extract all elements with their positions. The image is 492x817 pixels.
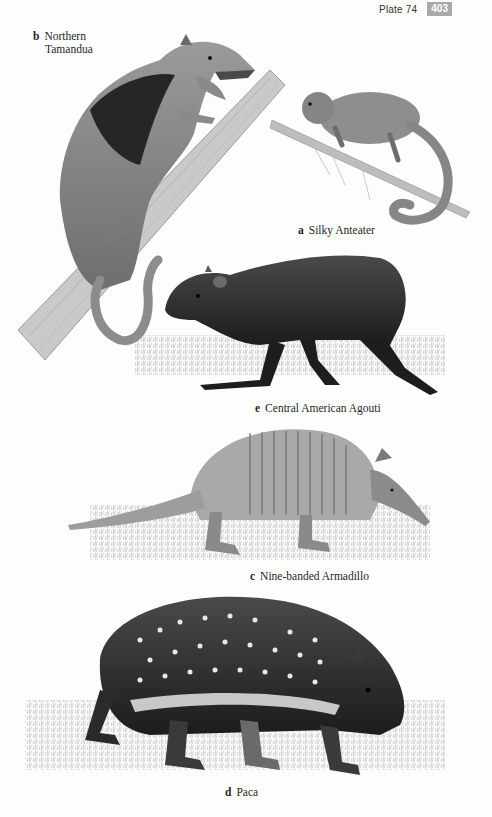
plate-header: Plate 74 403 xyxy=(379,2,452,16)
caption-name: Nine-banded Armadillo xyxy=(260,570,369,582)
illustrations xyxy=(0,0,492,817)
caption-paca: dPaca xyxy=(225,786,258,799)
caption-name: Silky Anteater xyxy=(309,224,375,236)
silky-anteater-illustration xyxy=(270,92,470,220)
caption-letter: a xyxy=(298,224,304,236)
caption-letter: b xyxy=(33,30,39,42)
caption-name-line1: Northern xyxy=(44,30,86,42)
caption-letter: e xyxy=(255,402,260,414)
plate-label: Plate 74 xyxy=(379,4,417,15)
caption-northern-tamandua: bNorthern Tamandua xyxy=(33,30,93,56)
central-american-agouti-illustration xyxy=(135,255,445,395)
nine-banded-armadillo-illustration xyxy=(68,429,430,560)
caption-central-american-agouti: eCentral American Agouti xyxy=(255,402,381,415)
page-number-badge: 403 xyxy=(427,2,452,16)
caption-name: Paca xyxy=(236,786,258,798)
caption-name-line2: Tamandua xyxy=(33,43,93,56)
field-guide-plate-page: Plate 74 403 bNorthern Tamandua aSilky A… xyxy=(0,0,492,817)
paca-illustration xyxy=(25,597,445,775)
caption-name: Central American Agouti xyxy=(265,402,381,414)
caption-letter: c xyxy=(250,570,255,582)
caption-letter: d xyxy=(225,786,231,798)
caption-nine-banded-armadillo: cNine-banded Armadillo xyxy=(250,570,369,583)
caption-silky-anteater: aSilky Anteater xyxy=(298,224,375,237)
